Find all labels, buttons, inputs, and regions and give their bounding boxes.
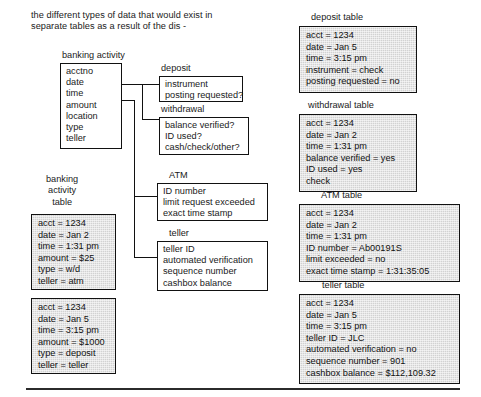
connector-segment — [142, 84, 160, 85]
entity-title-deposit: deposit — [161, 63, 191, 74]
table-row: sequence number = 901 — [306, 356, 454, 368]
table-row: automated verification = no — [306, 344, 454, 356]
table-row: teller ID = JLC — [306, 333, 454, 345]
connector-segment — [134, 100, 135, 258]
table-row: amount = $1000 — [38, 337, 110, 349]
table-title-teller: teller table — [322, 280, 364, 291]
table-row: ID used = yes — [306, 164, 411, 176]
table-row: time = 1:31 pm — [306, 141, 411, 153]
table-teller: acct = 1234 date = Jan 5 time = 3:15 pm … — [299, 294, 460, 384]
table-row: cashbox balance = $112,109.32 — [306, 368, 454, 380]
table-row: acct = 1234 — [306, 30, 411, 42]
table-row: date = Jan 2 — [38, 230, 110, 242]
entity-box-deposit: instrument posting requested? — [159, 76, 243, 102]
table-row: acct = 1234 — [306, 118, 411, 130]
entity-field: acctno — [66, 66, 117, 77]
table-row: acct = 1234 — [38, 302, 110, 314]
table-title-banking-activity: banking activity table — [46, 174, 78, 208]
table-row: teller = teller — [38, 360, 110, 372]
table-row: balance verified = yes — [306, 153, 411, 165]
table-banking-activity-record-1: acct = 1234 date = Jan 2 time = 1:31 pm … — [31, 214, 116, 290]
connector-segment — [134, 196, 158, 197]
table-row: type = deposit — [38, 348, 110, 360]
diagram-canvas: the different types of data that would e… — [0, 0, 481, 397]
table-row: date = Jan 2 — [306, 220, 454, 232]
entity-field: exact time stamp — [163, 208, 263, 219]
table-row: date = Jan 5 — [306, 310, 454, 322]
entity-field: teller ID — [163, 244, 263, 255]
entity-field: balance verified? — [165, 120, 244, 131]
table-row: amount = $25 — [38, 253, 110, 265]
table-row: acct = 1234 — [306, 208, 454, 220]
entity-field: cashbox balance — [163, 278, 263, 289]
footer-divider — [26, 388, 460, 390]
table-row: time = 3:15 pm — [38, 325, 110, 337]
table-row: acct = 1234 — [306, 298, 454, 310]
table-banking-activity-record-2: acct = 1234 date = Jan 5 time = 3:15 pm … — [31, 298, 116, 374]
table-title-withdrawal: withdrawal table — [308, 100, 374, 111]
connector-segment — [121, 84, 143, 85]
table-deposit: acct = 1234 date = Jan 5 time = 3:15 pm … — [299, 26, 417, 93]
connector-segment — [142, 119, 160, 120]
entity-box-banking-activity: acctno date time amount location type te… — [60, 63, 122, 149]
entity-field: time — [66, 88, 117, 99]
page-caption: the different types of data that would e… — [31, 10, 281, 33]
entity-field: type — [66, 122, 117, 133]
entity-field: amount — [66, 100, 117, 111]
table-row: time = 1:31 pm — [306, 231, 454, 243]
entity-field: limit request exceeded — [163, 197, 263, 208]
table-row: date = Jan 2 — [306, 130, 411, 142]
table-row: acct = 1234 — [38, 218, 110, 230]
connector-segment — [134, 257, 158, 258]
table-row: ID number = Ab00191S — [306, 243, 454, 255]
entity-field: instrument — [165, 79, 238, 90]
table-row: teller = atm — [38, 276, 110, 288]
entity-box-teller: teller ID automated verification sequenc… — [157, 241, 268, 291]
table-row: date = Jan 5 — [38, 314, 110, 326]
entity-box-withdrawal: balance verified? ID used? cash/check/ot… — [159, 117, 249, 155]
table-row: check — [306, 176, 411, 188]
entity-field: posting requested? — [165, 90, 238, 101]
table-row: posting requested = no — [306, 76, 411, 88]
table-withdrawal: acct = 1234 date = Jan 2 time = 1:31 pm … — [299, 114, 417, 192]
connector-segment — [121, 100, 135, 101]
entity-title-teller: teller — [169, 228, 189, 239]
entity-title-banking-activity: banking activity — [62, 50, 125, 61]
entity-box-atm: ID number limit request exceeded exact t… — [157, 183, 268, 221]
table-row: limit exceeded = no — [306, 254, 454, 266]
table-row: time = 1:31 pm — [38, 241, 110, 253]
entity-title-withdrawal: withdrawal — [161, 104, 204, 115]
table-row: type = w/d — [38, 264, 110, 276]
entity-field: ID number — [163, 186, 263, 197]
entity-field: automated verification — [163, 255, 263, 266]
connector-segment — [142, 84, 143, 120]
entity-field: date — [66, 77, 117, 88]
table-row: time = 3:15 pm — [306, 321, 454, 333]
table-row: exact time stamp = 1:31:35:05 — [306, 266, 454, 278]
table-row: date = Jan 5 — [306, 42, 411, 54]
entity-field: sequence number — [163, 266, 263, 277]
entity-field: ID used? — [165, 131, 244, 142]
table-title-atm: ATM table — [321, 190, 362, 201]
table-row: time = 3:15 pm — [306, 53, 411, 65]
entity-field: cash/check/other? — [165, 142, 244, 153]
table-title-deposit: deposit table — [311, 12, 363, 23]
entity-title-atm: ATM — [169, 170, 188, 181]
table-row: instrument = check — [306, 65, 411, 77]
entity-field: teller — [66, 133, 117, 144]
entity-field: location — [66, 111, 117, 122]
table-atm: acct = 1234 date = Jan 2 time = 1:31 pm … — [299, 204, 460, 282]
